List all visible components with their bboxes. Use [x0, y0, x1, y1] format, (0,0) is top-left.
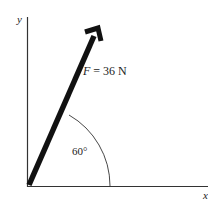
force-label: F = 36 N	[82, 64, 127, 78]
force-value: = 36 N	[90, 64, 127, 78]
angle-label: 60°	[72, 145, 87, 157]
force-vector-diagram: y x F = 36 N 60°	[0, 0, 208, 204]
y-axis-label: y	[16, 13, 22, 25]
x-axis-label: x	[202, 189, 208, 201]
diagram-canvas: y x F = 36 N 60°	[0, 0, 208, 204]
force-vector-shaft	[29, 36, 94, 185]
